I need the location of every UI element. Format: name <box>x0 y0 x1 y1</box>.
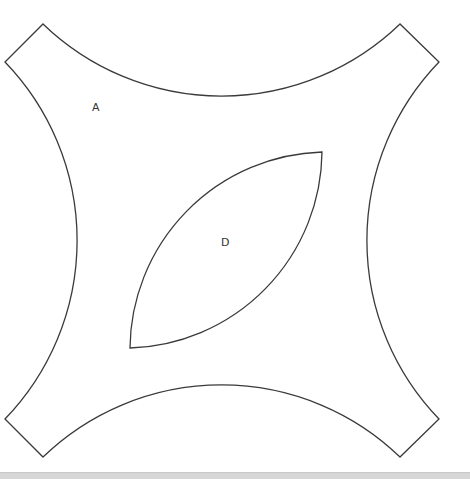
diagram-canvas: A D <box>0 0 470 472</box>
region-d-label: D <box>221 236 229 249</box>
region-a-label: A <box>92 101 100 114</box>
bottom-bar <box>0 472 470 479</box>
